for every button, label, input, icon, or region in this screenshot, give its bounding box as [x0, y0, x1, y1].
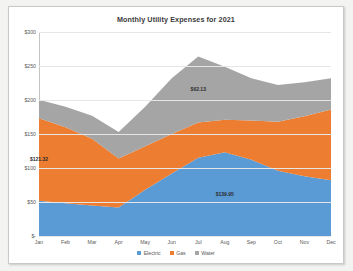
- x-axis-tick: Oct: [274, 239, 282, 245]
- gridline: [39, 202, 331, 203]
- gridline: [39, 66, 331, 67]
- x-axis-tick: Jan: [35, 239, 43, 245]
- gridline: [39, 236, 331, 237]
- y-axis-tick: $100: [24, 165, 36, 171]
- gridline: [39, 168, 331, 169]
- gridline: [39, 134, 331, 135]
- x-axis-tick: Apr: [115, 239, 123, 245]
- legend-label: Electric: [144, 250, 161, 256]
- chart-card: Monthly Utility Expenses for 2021 $-$50$…: [8, 6, 344, 264]
- y-axis-tick: $300: [24, 29, 36, 35]
- gridline: [39, 100, 331, 101]
- data-label: $62.13: [191, 86, 206, 92]
- x-axis-tick: Dec: [326, 239, 335, 245]
- legend-item-gas[interactable]: Gas: [170, 250, 186, 256]
- y-axis-tick: $50: [27, 199, 36, 205]
- chart-legend: ElectricGasWater: [9, 250, 343, 256]
- x-axis-tick: Jun: [168, 239, 176, 245]
- legend-swatch-icon: [137, 251, 141, 255]
- x-axis-tick: Mar: [88, 239, 97, 245]
- x-axis-tick: May: [140, 239, 150, 245]
- legend-label: Water: [201, 250, 215, 256]
- legend-swatch-icon: [170, 251, 174, 255]
- x-axis-tick: Sep: [247, 239, 256, 245]
- y-axis-tick: $200: [24, 97, 36, 103]
- legend-label: Gas: [176, 250, 186, 256]
- chart-title: Monthly Utility Expenses for 2021: [9, 15, 343, 24]
- x-axis-tick: Feb: [61, 239, 70, 245]
- y-axis-tick: $250: [24, 63, 36, 69]
- x-axis-tick: Jul: [195, 239, 202, 245]
- data-label: $121.32: [30, 156, 48, 162]
- legend-item-electric[interactable]: Electric: [137, 250, 161, 256]
- legend-swatch-icon: [195, 251, 199, 255]
- data-label: $139.95: [216, 191, 234, 197]
- x-axis-tick: Aug: [220, 239, 229, 245]
- gridline: [39, 32, 331, 33]
- x-axis-tick: Nov: [300, 239, 309, 245]
- legend-item-water[interactable]: Water: [195, 250, 215, 256]
- y-axis-tick: $150: [24, 131, 36, 137]
